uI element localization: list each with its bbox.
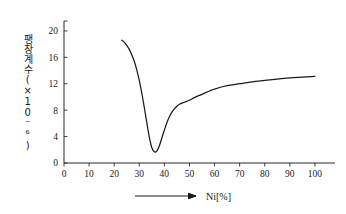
x-tick-label: 20 xyxy=(109,169,119,179)
y-tick-label: 12 xyxy=(49,79,59,89)
x-axis-tick-labels: 0102030405060708090100 xyxy=(62,169,323,179)
y-tick-label: 16 xyxy=(49,53,59,63)
x-tick-label: 10 xyxy=(84,169,94,179)
expansion-coefficient-chart: 팽창계수(×10⁻⁶) 0102030405060708090100 04812… xyxy=(0,0,346,214)
y-tick-label: 0 xyxy=(53,158,58,168)
x-tick-label: 0 xyxy=(62,169,67,179)
y-tick-label: 8 xyxy=(53,106,58,116)
y-axis-title: 팽창계수(×10⁻⁶) xyxy=(18,26,36,158)
y-axis-title-text: 팽창계수(×10⁻⁶) xyxy=(22,34,32,151)
x-tick-label: 80 xyxy=(260,169,270,179)
x-tick-label: 70 xyxy=(235,169,245,179)
curve-thermal-expansion xyxy=(122,40,315,152)
x-axis-arrow-head xyxy=(189,193,197,199)
y-tick-label: 20 xyxy=(49,26,59,36)
x-tick-label: 30 xyxy=(135,169,145,179)
axes-group xyxy=(64,21,335,163)
plot-canvas: 0102030405060708090100 048121620 Ni[%] xyxy=(0,0,346,214)
x-axis-title: Ni[%] xyxy=(206,191,231,202)
x-tick-label: 50 xyxy=(185,169,195,179)
x-tick-label: 60 xyxy=(210,169,220,179)
y-tick-label: 4 xyxy=(53,132,58,142)
x-axis-title-group: Ni[%] xyxy=(135,191,231,202)
y-axis-tick-labels: 048121620 xyxy=(49,26,59,168)
x-tick-label: 90 xyxy=(285,169,295,179)
x-tick-label: 100 xyxy=(308,169,323,179)
axis-spines xyxy=(64,21,335,163)
data-series-group xyxy=(122,40,315,152)
x-axis-ticks xyxy=(64,163,315,167)
y-axis-ticks xyxy=(64,21,68,163)
x-tick-label: 40 xyxy=(160,169,170,179)
